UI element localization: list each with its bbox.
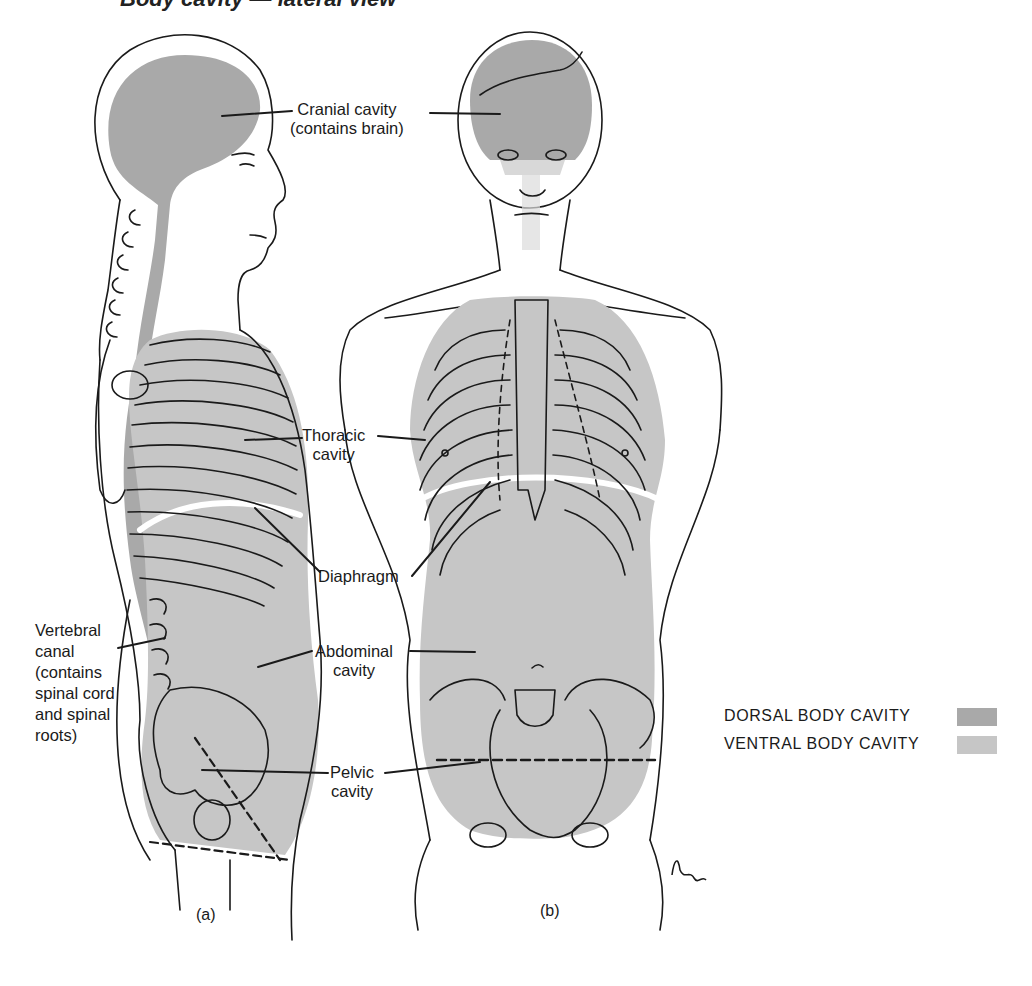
label-line: Thoracic (302, 426, 365, 445)
label-line: canal (35, 641, 115, 662)
label-pelvic-cavity: Pelvic cavity (330, 763, 374, 801)
label-thoracic-cavity: Thoracic cavity (302, 426, 365, 464)
artist-signature (672, 861, 706, 881)
anatomy-illustration (0, 0, 1032, 986)
legend-ventral: VENTRAL BODY CAVITY (724, 735, 919, 753)
label-line: cavity (315, 661, 393, 680)
label-line: Cranial cavity (290, 100, 404, 119)
ventral-cavity-b (410, 296, 665, 838)
legend-dorsal: DORSAL BODY CAVITY (724, 707, 911, 725)
figure-b-anterior (340, 32, 722, 930)
label-line: (contains (35, 662, 115, 683)
cranial-cavity-b (470, 40, 592, 160)
legend-ventral-swatch (957, 736, 997, 754)
figure-a-lateral (95, 35, 321, 940)
caption-a: (a) (196, 906, 216, 924)
label-line: spinal cord (35, 683, 115, 704)
label-line: Abdominal (315, 642, 393, 661)
label-line: roots) (35, 725, 115, 746)
label-vertebral-canal: Vertebral canal (contains spinal cord an… (35, 620, 115, 746)
label-cranial-cavity: Cranial cavity (contains brain) (290, 100, 404, 138)
label-line: and spinal (35, 704, 115, 725)
label-line: (contains brain) (290, 119, 404, 138)
caption-b: (b) (540, 902, 560, 920)
label-line: Pelvic (330, 763, 374, 782)
label-line: cavity (330, 782, 374, 801)
label-abdominal-cavity: Abdominal cavity (315, 642, 393, 680)
label-diaphragm: Diaphragm (318, 567, 399, 586)
label-line: Vertebral (35, 620, 115, 641)
legend-dorsal-swatch (957, 708, 997, 726)
label-line: cavity (302, 445, 365, 464)
